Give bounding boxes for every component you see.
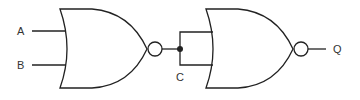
logic-diagram: A B C Q xyxy=(0,0,360,100)
input-label-a: A xyxy=(17,25,25,37)
input-label-b: B xyxy=(17,59,24,71)
nor-gate-2 xyxy=(206,9,308,88)
nor-gate-1 xyxy=(60,9,162,88)
output-label-q: Q xyxy=(333,43,342,55)
wire-c-bottom xyxy=(180,49,213,65)
intermediate-label-c: C xyxy=(176,71,184,83)
inversion-bubble-2 xyxy=(294,42,308,56)
wire-c-top xyxy=(180,32,213,49)
inversion-bubble-1 xyxy=(148,42,162,56)
